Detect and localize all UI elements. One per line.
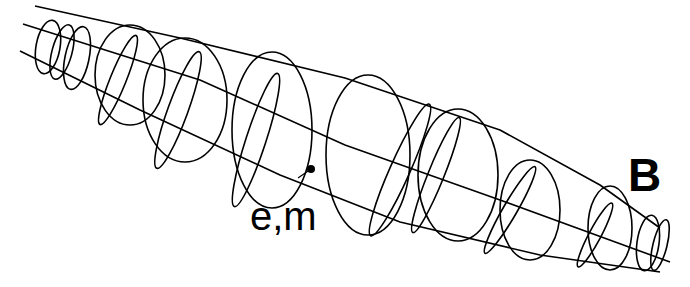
diagram-canvas [0, 0, 690, 287]
source-label: e,m [250, 196, 317, 236]
guide-lines [20, 6, 670, 272]
beam-diagram: e,m B [0, 0, 690, 287]
field-ellipse [633, 214, 663, 273]
field-ellipse [647, 218, 673, 272]
field-ellipse [500, 160, 560, 260]
field-ellipse [326, 75, 410, 235]
field-ellipse [59, 24, 96, 92]
field-ellipse [45, 22, 79, 81]
lower-envelope-line [20, 51, 660, 272]
field-ellipse [362, 100, 439, 240]
field-ellipse [405, 115, 466, 236]
field-label: B [628, 152, 661, 198]
field-ellipse [225, 70, 287, 209]
center-axis-line [23, 24, 670, 262]
field-ellipse [143, 38, 227, 162]
field-ellipse [232, 52, 312, 208]
field-ellipse [31, 18, 64, 75]
upper-envelope-line [35, 6, 660, 228]
field-ellipse [588, 186, 632, 270]
